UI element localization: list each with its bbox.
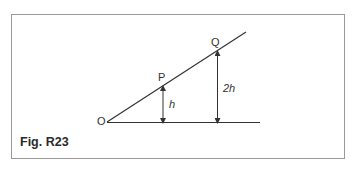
point-label-p: P xyxy=(158,72,165,83)
figure-caption: Fig. R23 xyxy=(20,135,69,149)
point-label-o: O xyxy=(97,116,106,127)
incline-line xyxy=(107,32,246,122)
point-label-q: Q xyxy=(211,37,220,48)
height-label-2h: 2h xyxy=(223,83,235,94)
height-label-h: h xyxy=(169,99,175,110)
